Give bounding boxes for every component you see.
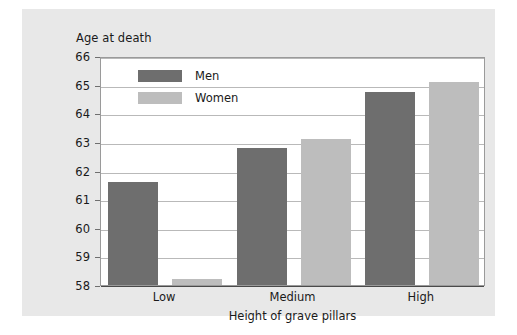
y-tick-label-64: 64: [75, 107, 90, 121]
x-axis-title: Height of grave pillars: [100, 309, 485, 323]
legend-label-men: Men: [195, 69, 219, 83]
y-tick-label-61: 61: [75, 193, 90, 207]
y-tick-label-59: 59: [75, 250, 90, 264]
x-tick-label-low: Low: [153, 290, 176, 304]
legend-swatch-women: [138, 92, 182, 104]
legend-swatch-men: [138, 70, 182, 82]
gridline-58: [101, 286, 484, 287]
x-tick-label-high: High: [408, 290, 434, 304]
chart-legend: MenWomen: [138, 66, 238, 110]
bar-high-men: [365, 92, 415, 285]
bar-medium-men: [237, 148, 287, 285]
bar-low-women: [172, 279, 222, 285]
y-axis-title: Age at death: [76, 31, 152, 45]
chart-figure-panel: Age at death 585960616263646566 MenWomen…: [22, 9, 495, 316]
legend-item-men: Men: [138, 66, 238, 86]
x-tick-label-medium: Medium: [270, 290, 316, 304]
y-tick-label-58: 58: [75, 279, 90, 293]
y-tick-label-60: 60: [75, 222, 90, 236]
bar-medium-women: [301, 139, 351, 285]
bar-low-men: [108, 182, 158, 285]
y-tick-label-65: 65: [75, 79, 90, 93]
y-tick-mark-58: [95, 286, 100, 287]
y-axis-tick-labels: 585960616263646566: [22, 57, 100, 286]
y-tick-label-66: 66: [75, 50, 90, 64]
legend-label-women: Women: [195, 91, 238, 105]
bar-high-women: [429, 82, 479, 285]
x-axis-tick-labels: LowMediumHigh: [100, 290, 485, 308]
y-tick-label-63: 63: [75, 136, 90, 150]
y-tick-label-62: 62: [75, 165, 90, 179]
legend-item-women: Women: [138, 88, 238, 108]
